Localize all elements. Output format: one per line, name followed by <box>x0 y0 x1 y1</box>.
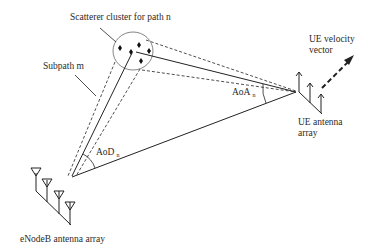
cluster-leader-line <box>100 28 116 42</box>
los-line <box>72 92 296 177</box>
aod-label: AoDn <box>96 147 119 161</box>
scatterer-dots <box>118 42 151 64</box>
ue-velocity-label: UE velocity vector <box>309 34 355 56</box>
aoa-label: AoAn <box>232 87 255 101</box>
subpath-label: Subpath m <box>43 61 84 72</box>
aoa-label-text: AoA <box>232 87 250 97</box>
aod-subscript: n <box>116 152 119 158</box>
enodeb-antenna-array-label: eNodeB antenna array <box>20 234 105 245</box>
ue-antenna-array-icon <box>296 72 324 114</box>
aoa-arc <box>263 84 266 103</box>
subpath-dashed-right-outer <box>146 40 296 91</box>
ue-antenna-array-label: UE antenna array <box>298 117 343 139</box>
subpath-dashed-right-inner <box>142 70 296 92</box>
ue-velocity-arrow-icon <box>322 55 354 88</box>
ue-velocity-label-line2: vector <box>309 45 355 56</box>
aod-label-text: AoD <box>96 147 114 157</box>
aoa-subscript: n <box>252 92 255 98</box>
ue-velocity-label-line1: UE velocity <box>309 34 355 45</box>
subpath-leader-line <box>75 75 96 96</box>
ue-antenna-label-line1: UE antenna <box>298 117 343 128</box>
enodeb-antenna-array-icon <box>31 168 75 225</box>
path-cluster-to-ue <box>136 52 296 92</box>
ue-antenna-label-line2: array <box>298 128 343 139</box>
scatterer-cluster-label: Scatterer cluster for path n <box>70 12 171 23</box>
